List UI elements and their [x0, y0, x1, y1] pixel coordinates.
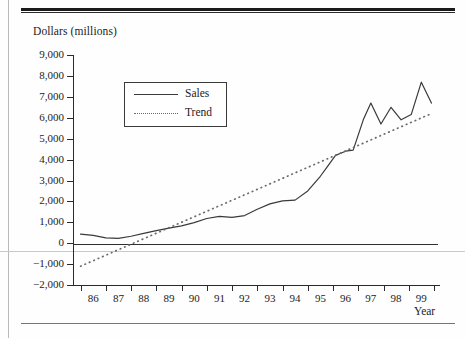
x-axis-tick-label: 94	[282, 292, 308, 304]
y-axis-title: Dollars (millions)	[33, 25, 117, 37]
x-axis-tick	[207, 285, 208, 291]
x-axis-tick	[333, 285, 334, 291]
legend-label-trend: Trend	[185, 106, 212, 118]
y-axis-tick	[67, 285, 73, 286]
y-axis-tick-label: −2,000	[33, 278, 64, 290]
y-axis-tick-label-wrap: 3,000	[0, 174, 64, 187]
x-axis-tick	[409, 285, 410, 291]
x-axis-tick-label: 99	[408, 292, 434, 304]
y-axis-tick-label: 0	[59, 236, 65, 248]
x-axis-tick-label: 90	[181, 292, 207, 304]
y-axis-tick	[67, 160, 73, 161]
x-axis-tick	[81, 285, 82, 291]
y-axis-tick	[67, 222, 73, 223]
y-axis-tick	[67, 264, 73, 265]
page-top-rule-hairline	[21, 12, 455, 13]
y-axis-tick	[67, 139, 73, 140]
y-axis-tick-label-wrap: 4,000	[0, 153, 64, 166]
x-axis-tick-label: 91	[206, 292, 232, 304]
y-axis-tick-label-wrap: 9,000	[0, 48, 64, 61]
y-axis-tick-label: 4,000	[39, 153, 64, 165]
x-axis-tick	[182, 285, 183, 291]
y-axis-tick-label: 2,000	[39, 194, 64, 206]
y-axis-tick-label: 5,000	[39, 132, 64, 144]
x-axis-tick	[434, 285, 435, 291]
chart-legend: Sales Trend	[124, 82, 227, 127]
legend-item-trend: Trend	[125, 105, 226, 123]
x-axis-tick-label: 92	[232, 292, 258, 304]
y-axis-tick	[67, 243, 73, 244]
y-axis-tick	[67, 201, 73, 202]
x-axis-tick	[384, 285, 385, 291]
x-axis-tick-label: 96	[333, 292, 359, 304]
page-bottom-rule	[21, 323, 455, 324]
x-axis-tick	[106, 285, 107, 291]
y-axis-tick-label-wrap: 1,000	[0, 215, 64, 228]
y-axis-tick-label: 8,000	[39, 69, 64, 81]
x-axis-title: Year	[414, 305, 435, 317]
x-axis-tick-label: 86	[80, 292, 106, 304]
legend-swatch-solid-line	[134, 94, 178, 95]
y-axis-tick-label: 3,000	[39, 174, 64, 186]
y-axis-tick-label-wrap: 0	[0, 236, 64, 249]
page-top-rule	[21, 8, 455, 11]
y-axis-tick-label-wrap: 2,000	[0, 194, 64, 207]
y-axis-tick-label: 6,000	[39, 111, 64, 123]
x-axis-tick	[358, 285, 359, 291]
x-axis-tick-label: 88	[131, 292, 157, 304]
y-axis-tick	[67, 97, 73, 98]
y-axis-tick-label-wrap: 5,000	[0, 132, 64, 145]
y-axis-tick-label-wrap: −1,000	[0, 257, 64, 270]
y-axis-tick-label: 7,000	[39, 90, 64, 102]
legend-label-sales: Sales	[185, 87, 209, 99]
legend-item-sales: Sales	[125, 86, 226, 104]
page-header-ghost-text	[150, 0, 320, 6]
x-axis-tick-label: 93	[257, 292, 283, 304]
y-axis-tick-label-wrap: 7,000	[0, 90, 64, 103]
y-axis-tick	[67, 181, 73, 182]
y-axis-tick	[67, 118, 73, 119]
y-axis-tick-label-wrap: −2,000	[0, 278, 64, 291]
x-axis-tick	[283, 285, 284, 291]
y-axis-tick-label-wrap: 6,000	[0, 111, 64, 124]
x-axis-tick-label: 87	[105, 292, 131, 304]
y-axis-tick-label-wrap: 8,000	[0, 69, 64, 82]
x-axis-tick-label: 98	[383, 292, 409, 304]
x-axis-tick	[232, 285, 233, 291]
x-axis-tick-label: 97	[358, 292, 384, 304]
y-axis-tick-label: −1,000	[33, 257, 64, 269]
figure-page: Dollars (millions) Year 9,0008,0007,0006…	[0, 0, 465, 338]
y-axis-tick-label: 9,000	[39, 48, 64, 60]
y-axis-tick	[67, 55, 73, 56]
x-axis-tick-label: 95	[307, 292, 333, 304]
x-axis-tick	[156, 285, 157, 291]
y-axis-line	[73, 55, 74, 286]
y-axis-tick-label: 1,000	[39, 215, 64, 227]
x-axis-tick	[131, 285, 132, 291]
page-scan-artifact-rule	[0, 251, 465, 252]
legend-swatch-dotted-line	[134, 113, 178, 114]
zero-baseline	[73, 244, 438, 246]
x-axis-tick	[257, 285, 258, 291]
x-axis-tick	[308, 285, 309, 291]
y-axis-tick	[67, 76, 73, 77]
x-axis-tick-label: 89	[156, 292, 182, 304]
